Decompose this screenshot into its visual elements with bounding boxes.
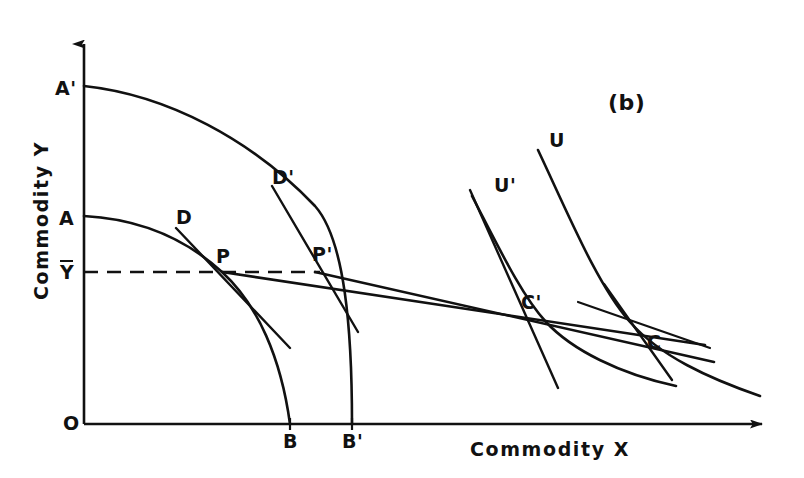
label-point-c: C xyxy=(647,333,661,352)
panel-label: (b) xyxy=(608,92,645,114)
diagram-canvas xyxy=(0,0,804,478)
indifference-curve-u xyxy=(538,150,760,396)
label-point-p: P xyxy=(216,247,230,266)
label-b: B xyxy=(283,432,298,451)
label-a-prime: A' xyxy=(55,79,77,98)
x-axis-title: Commodity X xyxy=(470,440,630,459)
label-curve-u-prime: U' xyxy=(494,176,516,195)
figure-panel-b: Commodity Y Commodity X (b) O A' A Y B B… xyxy=(0,0,804,478)
label-b-prime: B' xyxy=(342,432,363,451)
tangent-segment-d xyxy=(176,228,290,348)
ppf-inner-curve xyxy=(84,216,290,424)
y-axis-title: Commodity Y xyxy=(32,141,51,300)
label-point-p-prime: P' xyxy=(312,245,333,264)
axis-group xyxy=(84,44,762,424)
price-line-p-to-cprime xyxy=(222,272,705,345)
label-a: A xyxy=(59,209,74,228)
label-curve-u: U xyxy=(549,131,565,150)
origin-label: O xyxy=(63,414,80,433)
label-curve-d-prime: D' xyxy=(272,168,295,187)
label-y-bar: Y xyxy=(60,263,74,282)
label-curve-d: D xyxy=(176,208,192,227)
tangent-segment-c-prime xyxy=(470,190,558,388)
label-point-c-prime: C' xyxy=(521,293,542,312)
